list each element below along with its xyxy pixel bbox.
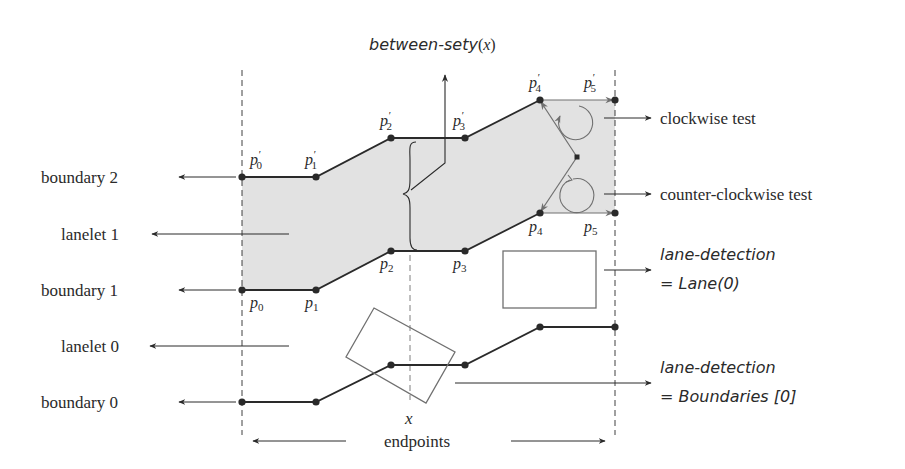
boundary-2-label: boundary 2 [41,168,118,187]
point-label-p5-prime: p′5 [583,71,596,94]
between-sety-label: between-sety(x) [369,35,496,54]
lane-detection-value-2: = Boundaries [0] [660,387,796,406]
boundary-0-label: boundary 0 [41,393,118,412]
lane-detection-value-1: = Lane(0) [660,274,740,293]
point-label-p1-prime: p′1 [304,148,317,171]
point-label-p2-prime: p′2 [379,109,392,132]
midpoint-marker [575,155,580,160]
point-label-p0: p0 [249,294,264,313]
lanelet-0-label: lanelet 0 [61,337,119,356]
counter-clockwise-test-label: counter-clockwise test [660,185,812,204]
lane-detection-label-1: lane-detection [660,245,776,264]
lanelet-1-label: lanelet 1 [61,225,119,244]
point-label-p3: p3 [452,255,467,274]
point-label-p3-prime: p′3 [452,109,465,132]
endpoints-label: endpoints [384,432,450,451]
lane-detection-box [503,251,596,308]
point-label-p4: p4 [528,218,543,237]
point-label-p4-prime: p′4 [528,71,541,94]
boundary-detection-box [346,308,455,403]
point-label-p1: p1 [304,294,319,313]
x-label: x [404,409,413,428]
point-label-p5: p5 [583,218,598,237]
lanelet-diagram: boundary 2 lanelet 1 boundary 1 lanelet … [0,0,905,469]
point-label-p0-prime: p′0 [249,148,262,171]
boundary-1-label: boundary 1 [41,281,118,300]
clockwise-test-label: clockwise test [660,109,756,128]
lane-detection-label-2: lane-detection [660,358,776,377]
point-label-p2: p2 [379,255,394,274]
